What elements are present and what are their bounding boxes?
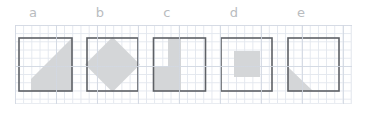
panel-label-row: a b c d e [15, 4, 352, 24]
shapes-layer [15, 25, 352, 104]
shape-panel-b [84, 36, 141, 93]
shape-panel-e [285, 36, 342, 93]
shape-panel-d [218, 36, 275, 93]
panel-label-a: a [23, 4, 43, 22]
shape-panel-c [151, 36, 208, 93]
panel-label-e: e [291, 4, 311, 22]
shaded-inner-square-icon [234, 51, 260, 77]
shaded-squares-figure: a b c d e [0, 0, 367, 113]
shape-panel-a [17, 36, 74, 93]
shaded-corner-triangle-icon [288, 67, 313, 91]
panel-label-b: b [90, 4, 110, 22]
shaded-l-shape-icon [154, 38, 181, 91]
shaded-diamond-icon [85, 37, 140, 92]
graph-paper-panel [15, 25, 352, 104]
panel-label-d: d [224, 4, 244, 22]
shaded-diagonal-region-icon [31, 38, 72, 91]
panel-label-c: c [157, 4, 177, 22]
